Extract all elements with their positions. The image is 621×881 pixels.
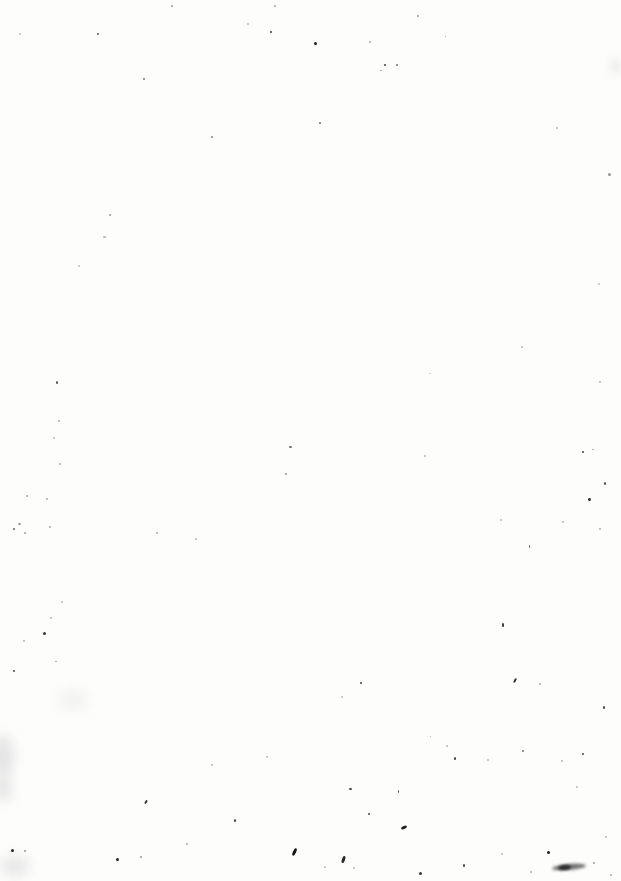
dust-speck xyxy=(398,790,399,793)
dust-speck xyxy=(55,661,57,662)
dust-speck xyxy=(401,825,408,830)
dust-speck xyxy=(360,682,362,684)
dust-speck xyxy=(291,848,297,857)
dust-speck xyxy=(562,521,564,523)
dust-speck xyxy=(26,495,28,497)
dust-speck xyxy=(116,858,119,861)
dust-speck xyxy=(274,5,276,7)
dust-speck xyxy=(43,632,46,635)
dust-speck xyxy=(593,862,595,864)
dust-speck xyxy=(140,856,142,858)
dust-speck xyxy=(58,420,60,422)
dust-speck xyxy=(143,78,145,80)
dust-speck xyxy=(384,64,386,66)
dust-speck xyxy=(56,381,58,384)
dust-speck xyxy=(103,236,106,238)
dust-speck xyxy=(319,122,321,124)
dust-speck xyxy=(369,41,371,43)
dust-speck xyxy=(211,136,213,138)
dust-speck xyxy=(603,706,605,709)
dust-speck xyxy=(13,670,15,672)
dust-speck xyxy=(353,867,355,869)
dust-speck xyxy=(285,473,287,475)
dust-speck xyxy=(599,381,601,383)
dust-speck xyxy=(368,813,370,815)
dust-speck xyxy=(247,23,249,25)
dust-speck xyxy=(341,696,343,698)
scanned-blank-page xyxy=(0,0,621,881)
dust-speck xyxy=(463,864,465,867)
dust-speck xyxy=(599,528,601,530)
dust-speck xyxy=(349,788,352,790)
dust-speck xyxy=(547,851,550,854)
dust-speck xyxy=(19,33,21,35)
dust-speck xyxy=(582,753,584,755)
dust-speck xyxy=(24,850,26,852)
dust-speck xyxy=(11,849,14,852)
dust-speck xyxy=(576,786,578,788)
dust-speck xyxy=(500,519,502,521)
dust-speck xyxy=(430,736,431,737)
dust-speck xyxy=(502,623,504,627)
dust-speck xyxy=(446,745,448,747)
dust-speck xyxy=(50,617,52,619)
dust-speck xyxy=(588,498,592,502)
dust-speck xyxy=(561,760,563,762)
dust-speck xyxy=(341,856,346,864)
dust-speck xyxy=(529,545,530,548)
dust-speck xyxy=(417,15,419,17)
dust-speck xyxy=(522,750,524,752)
dust-speck xyxy=(195,538,197,540)
dust-specks-layer xyxy=(0,0,621,881)
dust-speck xyxy=(314,42,317,45)
dust-speck xyxy=(608,173,611,176)
dust-speck xyxy=(24,532,26,534)
dust-speck xyxy=(109,214,111,216)
dust-speck xyxy=(521,346,523,348)
dust-speck xyxy=(424,455,426,457)
dust-speck xyxy=(49,526,51,528)
dust-speck xyxy=(454,757,456,760)
dust-speck xyxy=(419,872,422,875)
dust-speck xyxy=(396,64,398,66)
dust-speck xyxy=(23,640,25,642)
dust-speck xyxy=(156,532,158,534)
dust-speck xyxy=(604,482,606,485)
dust-speck xyxy=(513,678,517,683)
dust-speck xyxy=(556,127,558,129)
dust-speck xyxy=(61,601,63,603)
dust-speck xyxy=(266,756,268,758)
dust-speck xyxy=(78,265,80,267)
dust-speck xyxy=(592,449,594,450)
dust-speck xyxy=(171,5,173,7)
dust-speck xyxy=(18,523,21,525)
dust-speck xyxy=(598,283,600,285)
dust-speck xyxy=(46,498,48,500)
dust-speck xyxy=(605,836,607,838)
dust-speck xyxy=(59,463,61,465)
dust-speck xyxy=(539,683,541,685)
dust-speck xyxy=(144,800,148,804)
dust-speck xyxy=(211,764,213,766)
dust-speck xyxy=(234,819,236,822)
dust-speck xyxy=(501,853,503,855)
dust-speck xyxy=(445,36,446,37)
dust-speck xyxy=(582,451,584,453)
dust-speck xyxy=(380,70,382,71)
dust-speck xyxy=(289,446,292,448)
dust-speck xyxy=(324,866,326,868)
dust-speck xyxy=(13,528,15,530)
dust-speck xyxy=(186,843,188,845)
dust-speck xyxy=(487,759,489,761)
dust-speck xyxy=(53,437,55,439)
dust-speck xyxy=(610,874,612,876)
dust-speck xyxy=(270,31,272,33)
dust-speck xyxy=(97,33,99,35)
dust-speck xyxy=(530,871,532,873)
dust-speck xyxy=(429,373,431,374)
